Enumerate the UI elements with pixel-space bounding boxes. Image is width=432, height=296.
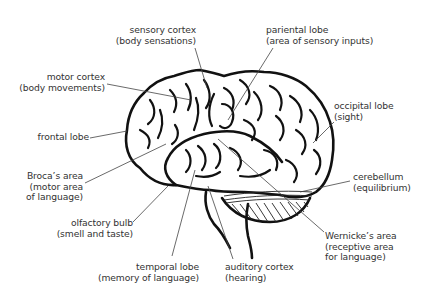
label-cerebellum: cerebellum (equilibrium)	[353, 172, 411, 193]
label-note: (equilibrium)	[353, 183, 411, 194]
label-note: for language)	[325, 252, 397, 263]
label-title: auditory cortex	[225, 262, 294, 273]
label-title: frontal lobe	[38, 132, 89, 143]
label-title: Wernicke’s area	[325, 231, 397, 242]
label-note: of language)	[26, 192, 83, 203]
label-note: (smell and taste)	[57, 229, 133, 240]
label-title: pariental lobe	[266, 25, 373, 36]
label-frontal-lobe: frontal lobe	[38, 132, 89, 143]
brain-outline	[126, 70, 333, 258]
label-title: occipital lobe	[334, 101, 394, 112]
label-note: (memory of language)	[98, 273, 199, 284]
label-sensory-cortex: sensory cortex (body sensations)	[116, 25, 196, 46]
label-title: olfactory bulb	[57, 218, 133, 229]
label-title: sensory cortex	[116, 25, 196, 36]
label-parietal-lobe: pariental lobe (area of sensory inputs)	[266, 25, 373, 46]
label-title: Broca’s area	[26, 171, 83, 182]
label-note: (hearing)	[225, 273, 294, 284]
label-olfactory-bulb: olfactory bulb (smell and taste)	[57, 218, 133, 239]
label-auditory-cortex: auditory cortex (hearing)	[225, 262, 294, 283]
label-note: (body movements)	[19, 83, 105, 94]
label-note: (sight)	[334, 112, 394, 123]
label-brocas-area: Broca’s area (motor area of language)	[26, 171, 83, 203]
label-wernickes-area: Wernicke’s area (receptive area for lang…	[325, 231, 397, 263]
label-temporal-lobe: temporal lobe (memory of language)	[98, 262, 199, 283]
label-note: (area of sensory inputs)	[266, 36, 373, 47]
label-motor-cortex: motor cortex (body movements)	[19, 72, 105, 93]
label-title: motor cortex	[19, 72, 105, 83]
label-title: temporal lobe	[98, 262, 199, 273]
label-note: (body sensations)	[116, 36, 196, 47]
label-occipital-lobe: occipital lobe (sight)	[334, 101, 394, 122]
label-title: cerebellum	[353, 172, 411, 183]
